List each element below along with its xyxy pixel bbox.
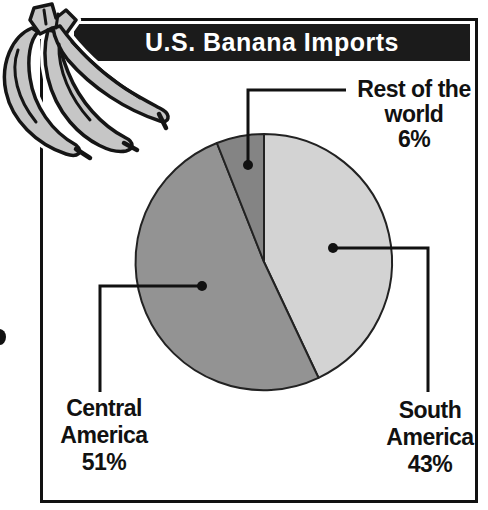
slice-label-rest-of-world: Rest of the world 6% <box>340 77 488 152</box>
slice-label-line: world <box>340 102 488 127</box>
slice-value: 51% <box>32 449 176 476</box>
slice-label-central-america: Central America 51% <box>32 395 176 476</box>
slice-label-line: America <box>356 424 488 451</box>
slice-value: 6% <box>340 127 488 152</box>
slice-label-south-america: South America 43% <box>356 397 488 478</box>
slice-label-line: Rest of the <box>340 77 488 102</box>
dot-rest-of-world <box>243 160 253 170</box>
dot-south-america <box>328 243 338 253</box>
banana-bunch-icon <box>0 2 186 177</box>
slice-label-line: Central <box>32 395 176 422</box>
slice-value: 43% <box>356 451 488 478</box>
dot-central-america <box>197 281 207 291</box>
slice-label-line: America <box>32 422 176 449</box>
slice-label-line: South <box>356 397 488 424</box>
